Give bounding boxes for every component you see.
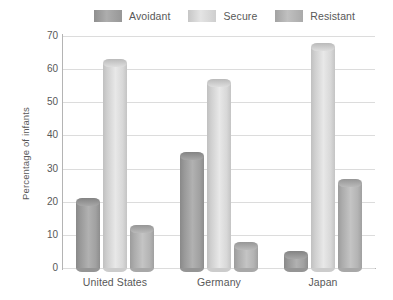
legend-item-resistant[interactable]: Resistant: [275, 10, 355, 22]
bar-japan-resistant[interactable]: [338, 179, 362, 268]
bar-japan-avoidant[interactable]: [284, 251, 308, 268]
bar-united-states-secure[interactable]: [103, 59, 127, 268]
legend-label: Secure: [223, 10, 257, 22]
bar-germany-avoidant[interactable]: [180, 152, 204, 268]
bar-top-ellipse: [207, 79, 231, 87]
y-axis-tick-label: 0: [18, 263, 58, 273]
legend-label: Resistant: [310, 10, 355, 22]
legend-swatch-icon: [275, 10, 303, 22]
bar-top-ellipse: [103, 59, 127, 67]
bar-top-ellipse: [284, 251, 308, 259]
bar-body: [338, 183, 362, 268]
bar-top-ellipse: [234, 242, 258, 250]
y-axis-tick-labels: 010203040506070: [14, 36, 58, 268]
legend-swatch-icon: [188, 10, 216, 22]
bar-top-ellipse: [338, 179, 362, 187]
legend-item-secure[interactable]: Secure: [188, 10, 257, 22]
bar-japan-secure[interactable]: [311, 43, 335, 268]
bar-body: [103, 63, 127, 268]
bar-top-ellipse: [130, 225, 154, 233]
bar-united-states-avoidant[interactable]: [76, 198, 100, 268]
bar-chart: AvoidantSecureResistant Percentage of in…: [0, 0, 393, 300]
bar-germany-secure[interactable]: [207, 79, 231, 268]
y-axis-tick-label: 70: [18, 31, 58, 41]
bar-body: [180, 156, 204, 268]
legend-swatch-icon: [94, 10, 122, 22]
x-axis-label-united-states: United States: [63, 276, 167, 288]
bar-body: [207, 83, 231, 268]
x-axis-label-germany: Germany: [167, 276, 271, 288]
bar-united-states-resistant[interactable]: [130, 225, 154, 268]
legend-label: Avoidant: [129, 10, 170, 22]
x-axis-label-japan: Japan: [271, 276, 375, 288]
y-axis-tick-label: 50: [18, 97, 58, 107]
y-axis-tick-label: 20: [18, 197, 58, 207]
bar-body: [130, 229, 154, 268]
bar-body: [311, 47, 335, 268]
chart-legend: AvoidantSecureResistant: [94, 8, 384, 24]
y-axis-tick-label: 40: [18, 130, 58, 140]
y-axis-tick-label: 10: [18, 230, 58, 240]
bar-germany-resistant[interactable]: [234, 242, 258, 269]
legend-item-avoidant[interactable]: Avoidant: [94, 10, 170, 22]
plot-area: [63, 36, 375, 268]
bar-top-ellipse: [311, 43, 335, 51]
y-axis-tick-label: 60: [18, 64, 58, 74]
y-axis-tick-label: 30: [18, 164, 58, 174]
bar-top-ellipse: [180, 152, 204, 160]
bar-top-ellipse: [76, 198, 100, 206]
bar-body: [76, 202, 100, 268]
gridline: [63, 36, 375, 37]
